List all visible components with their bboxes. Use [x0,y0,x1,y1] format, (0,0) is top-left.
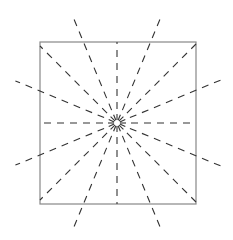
center-star [108,114,126,132]
ray-line [130,128,221,166]
radial-diagram [0,0,233,240]
ray-line [130,80,221,118]
ray-line [15,128,104,165]
ray-line [40,46,107,113]
ray-line [127,133,196,202]
ray-line [127,44,196,113]
ray-line [15,81,104,118]
dashed-rays [15,16,221,230]
ray-line [73,136,112,230]
ray-line [40,133,107,200]
ray-line [73,16,112,110]
ray-line [122,136,161,230]
ray-line [122,16,161,110]
